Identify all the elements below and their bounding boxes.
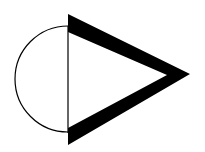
diagram-canvas <box>0 0 205 152</box>
triangle-outline <box>68 14 190 145</box>
semicircle <box>15 26 68 132</box>
